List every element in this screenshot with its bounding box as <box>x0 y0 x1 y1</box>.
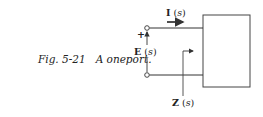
current-label: I (s) <box>166 7 186 18</box>
impedance-label: Z (s) <box>172 97 194 108</box>
top-terminal-icon <box>145 26 150 31</box>
network-box <box>203 15 250 87</box>
bottom-terminal-icon <box>145 73 150 78</box>
voltage-label: E (s) <box>134 46 157 57</box>
polarity-plus: + <box>137 29 145 40</box>
oneport-diagram: I (s) + E (s) Z (s) <box>0 0 263 117</box>
